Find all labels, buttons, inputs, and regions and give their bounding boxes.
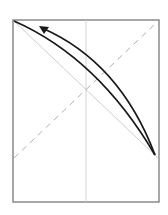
diagram-canvas [0,0,168,215]
dashed-diagonal-line [14,25,154,158]
